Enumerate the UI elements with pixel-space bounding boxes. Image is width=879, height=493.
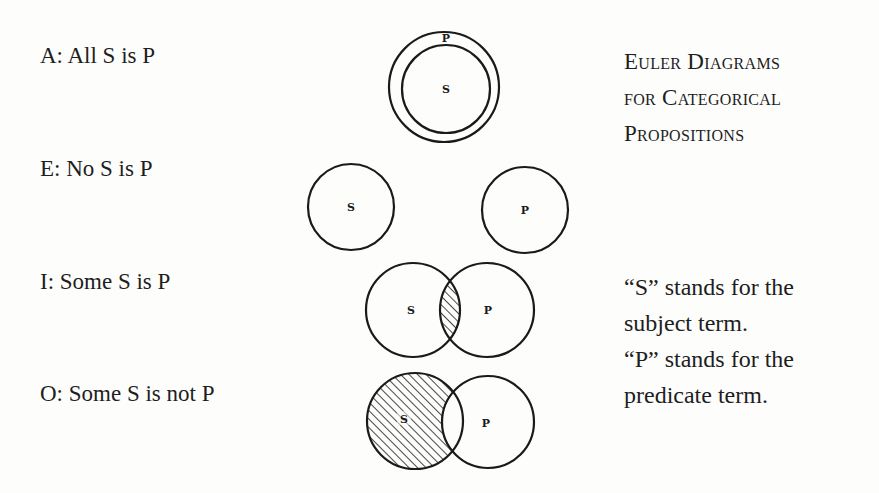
subject-label: S xyxy=(400,413,408,426)
legend-notes: “S” stands for the subject term. “P” sta… xyxy=(624,269,794,413)
diagram-title: Euler Diagrams for Categorical Propositi… xyxy=(624,44,781,152)
subject-label: S xyxy=(442,83,450,96)
predicate-label: P xyxy=(482,417,490,430)
diagram-i: S P xyxy=(366,263,534,357)
predicate-label: P xyxy=(521,204,529,217)
diagram-o: S P xyxy=(367,373,534,469)
title-line: Propositions xyxy=(624,116,781,152)
subject-label: S xyxy=(347,201,355,214)
predicate-label: P xyxy=(484,304,492,317)
note-line: “P” stands for the xyxy=(624,341,794,377)
diagram-a: P S xyxy=(389,32,499,142)
predicate-label: P xyxy=(442,32,450,45)
title-line: Euler Diagrams xyxy=(624,44,781,80)
diagram-e: S P xyxy=(308,164,568,253)
note-line: predicate term. xyxy=(624,377,794,413)
subject-label: S xyxy=(407,304,415,317)
note-line: “S” stands for the xyxy=(624,269,794,305)
note-line: subject term. xyxy=(624,305,794,341)
title-line: for Categorical xyxy=(624,80,781,116)
